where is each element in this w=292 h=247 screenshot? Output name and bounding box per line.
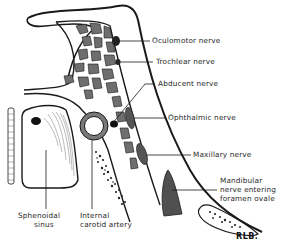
label-maxillary-nerve: Maxillary nerve xyxy=(193,151,251,159)
label-trochlear-nerve: Trochlear nerve xyxy=(156,58,215,66)
mandibular-nerve xyxy=(162,170,182,216)
petrous-bone xyxy=(199,205,259,236)
label-oculomotor-nerve: Oculomotor nerve xyxy=(152,37,220,45)
label-ophthalmic-nerve: Ophthalmic nerve xyxy=(168,114,236,122)
label-mandibular-line3: foramen ovale xyxy=(220,195,275,203)
sphenoid-bone-strip xyxy=(8,108,14,184)
sphenoidal-sinus xyxy=(22,106,78,189)
carotid-artery-lumen xyxy=(85,117,104,136)
sinus-dark-spot xyxy=(31,117,41,125)
trochlear-nerve xyxy=(116,59,121,65)
label-carotid-line2: carotid artery xyxy=(80,221,132,229)
label-abducent-nerve: Abducent nerve xyxy=(158,80,218,88)
artist-signature: RLB. xyxy=(236,232,258,241)
anatomical-diagram xyxy=(0,0,292,247)
label-sphenoidal-line2: sinus xyxy=(34,221,54,229)
